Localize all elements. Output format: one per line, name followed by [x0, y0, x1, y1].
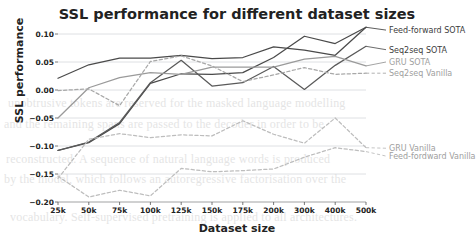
series-label-seq2seq-vanilla: Seq2seq Vanilla	[389, 69, 452, 78]
x-axis-tick-label: 500k	[356, 206, 377, 215]
series-line-gru-vanilla	[58, 118, 366, 178]
x-axis-tick-label: 125k	[171, 206, 192, 215]
y-axis-tick-label: 0.00	[35, 86, 54, 95]
series-label-feed-fordward-vanilla: Feed-fordward Vanilla	[389, 152, 476, 161]
x-axis-tick-label: 300k	[294, 206, 315, 215]
x-axis-tick-label: 100k	[140, 206, 161, 215]
x-axis-tick-label: 400k	[325, 206, 346, 215]
y-axis-tick-label: 0.05	[35, 58, 54, 67]
series-label-feed-forward-sota: Feed-forward SOTA	[389, 26, 465, 35]
series-label-gru-sota: GRU SOTA	[389, 58, 430, 67]
x-axis-tick-label: 175k	[232, 206, 253, 215]
x-axis-label: Dataset size	[0, 222, 474, 235]
plot-area: 0.100.050.00−0.05−0.10−0.15−0.2025k50k75…	[58, 34, 366, 202]
x-axis-tick-label: 25k	[50, 206, 65, 215]
leader-line-feed-forward-sota	[366, 27, 386, 30]
x-axis-tick-label: 50k	[81, 206, 96, 215]
y-axis-tick-label: 0.10	[35, 30, 54, 39]
x-axis-tick-label: 200k	[263, 206, 284, 215]
y-axis-tick-label: −0.05	[29, 114, 54, 123]
leader-line-seq2seq-sota	[366, 46, 386, 49]
series-line-seq2seq-vanilla	[58, 56, 366, 106]
y-axis-tick-label: −0.10	[29, 142, 54, 151]
leader-line-feed-fordward-vanilla	[366, 152, 386, 156]
plot-canvas	[58, 34, 366, 202]
series-line-feed-fordward-vanilla	[58, 148, 366, 197]
y-axis-tick-label: −0.15	[29, 170, 54, 179]
series-line-gru-sota	[58, 56, 366, 118]
leader-line-gru-vanilla	[366, 148, 386, 149]
x-axis-tick-label: 75k	[112, 206, 127, 215]
y-axis-label: SSL performance	[13, 6, 26, 136]
series-label-seq2seq-sota: Seq2seq SOTA	[389, 45, 447, 54]
x-axis-tick-label: 150k	[202, 206, 223, 215]
chart-title: SSL performance for different dataset si…	[0, 6, 474, 22]
leader-line-gru-sota	[366, 62, 386, 66]
